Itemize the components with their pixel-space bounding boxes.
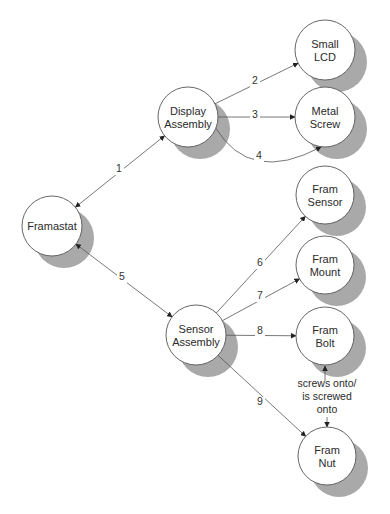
edge-label-3: 3 bbox=[252, 108, 258, 120]
node-screw[interactable]: MetalScrew bbox=[295, 87, 355, 147]
node-label: Fram bbox=[312, 253, 338, 265]
edge-label-1: 1 bbox=[116, 162, 122, 174]
relationship-note-line: is screwed bbox=[302, 390, 352, 402]
node-label: Sensor bbox=[308, 196, 343, 208]
edge-label-7: 7 bbox=[257, 289, 263, 301]
node-label: Screw bbox=[310, 118, 341, 130]
edge-label-4: 4 bbox=[256, 149, 262, 161]
node-label: Metal bbox=[312, 105, 339, 117]
node-display[interactable]: DisplayAssembly bbox=[158, 87, 218, 147]
node-label: Assembly bbox=[164, 118, 212, 130]
node-label: Nut bbox=[318, 457, 335, 469]
node-fbolt[interactable]: FramBolt bbox=[296, 307, 354, 365]
node-fsensor[interactable]: FramSensor bbox=[296, 166, 354, 224]
node-label: Small bbox=[311, 38, 339, 50]
node-label: Bolt bbox=[316, 337, 335, 349]
node-sensorasm[interactable]: SensorAssembly bbox=[166, 305, 226, 365]
node-label: Fram bbox=[314, 444, 340, 456]
relationship-diagram: FramastatDisplayAssemblySensorAssemblySm… bbox=[0, 0, 390, 514]
edge-label-8: 8 bbox=[257, 324, 263, 336]
edge-label-9: 9 bbox=[257, 395, 263, 407]
node-label: Framastat bbox=[27, 220, 77, 232]
edge-label-6: 6 bbox=[257, 256, 263, 268]
relationship-note-line: onto bbox=[317, 403, 338, 415]
node-label: Mount bbox=[310, 266, 341, 278]
node-label: Sensor bbox=[179, 323, 214, 335]
edge-label-5: 5 bbox=[119, 270, 125, 282]
node-label: Fram bbox=[312, 324, 338, 336]
node-lcd[interactable]: SmallLCD bbox=[295, 20, 355, 80]
node-fnut[interactable]: FramNut bbox=[298, 427, 356, 485]
node-label: Assembly bbox=[172, 336, 220, 348]
node-framastat[interactable]: Framastat bbox=[22, 196, 82, 256]
relationship-note-line: screws onto/ bbox=[298, 377, 357, 389]
node-label: LCD bbox=[314, 51, 336, 63]
node-label: Fram bbox=[312, 183, 338, 195]
edge-label-2: 2 bbox=[252, 74, 258, 86]
node-fmount[interactable]: FramMount bbox=[296, 236, 354, 294]
node-label: Display bbox=[170, 105, 207, 117]
